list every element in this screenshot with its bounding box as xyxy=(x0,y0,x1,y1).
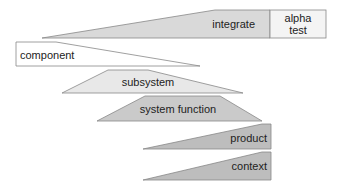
alpha-test-label-line1: alpha xyxy=(285,12,313,24)
integrate-label: integrate xyxy=(212,18,255,30)
system-function-label: system function xyxy=(140,103,216,115)
alpha-test-label-line2: test xyxy=(289,24,307,36)
context-label: context xyxy=(232,160,267,172)
product-label: product xyxy=(230,132,267,144)
subsystem-label: subsystem xyxy=(122,76,175,88)
component-label: component xyxy=(20,49,74,61)
layer-diagram: integrate alpha test component subsystem… xyxy=(0,0,340,190)
